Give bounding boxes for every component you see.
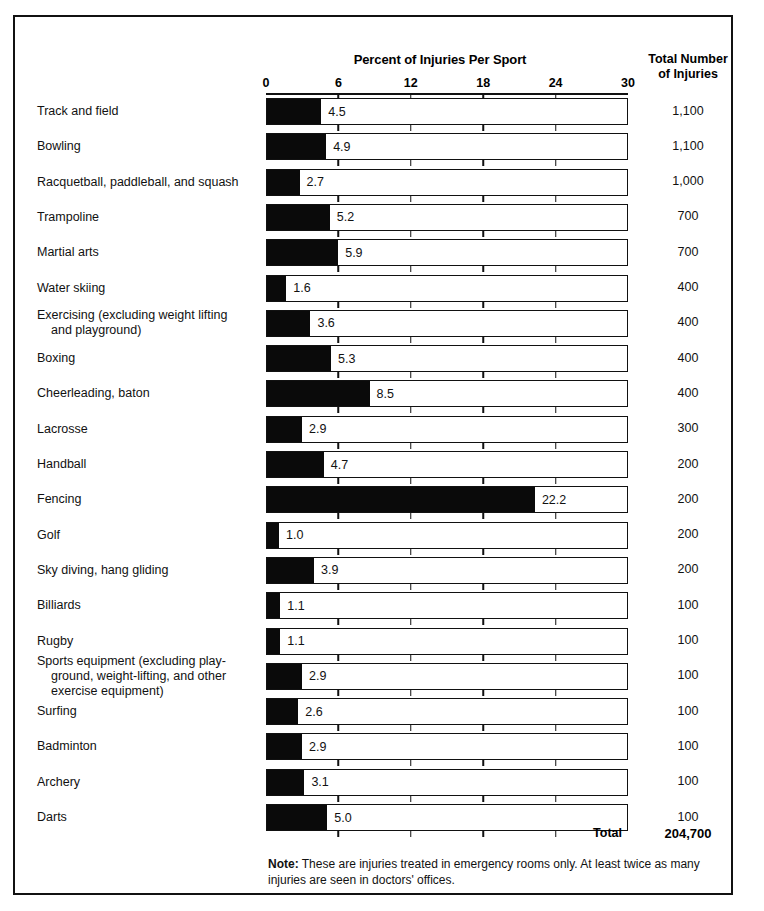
bar-value-label: 5.0 <box>334 811 351 825</box>
row-label: Sports equipment (excluding play-ground,… <box>37 654 259 699</box>
x-tick-mark-6 <box>338 93 340 99</box>
bar-track <box>266 486 628 513</box>
grid-tick <box>555 760 557 766</box>
grid-tick <box>410 478 412 484</box>
bar-fill <box>267 452 324 477</box>
bar-value-label: 1.0 <box>286 528 303 542</box>
grid-tick <box>482 407 484 413</box>
grid-tick <box>410 619 412 625</box>
row-total-value: 700 <box>628 245 748 259</box>
grid-tick <box>338 549 340 555</box>
row-label-line: ground, weight-lifting, and other <box>37 669 259 684</box>
grid-tick <box>410 196 412 202</box>
grid-tick <box>482 337 484 343</box>
grid-tick <box>410 760 412 766</box>
bar-value-label: 2.9 <box>309 740 326 754</box>
grid-tick <box>338 796 340 802</box>
grid-tick <box>338 584 340 590</box>
row-label-line: Racquetball, paddleball, and squash <box>37 175 259 190</box>
grid-tick <box>338 655 340 661</box>
note-lead: Note: <box>268 857 299 871</box>
grid-tick <box>555 196 557 202</box>
grid-tick <box>482 302 484 308</box>
row-label-line: Water skiing <box>37 281 259 296</box>
row-label: Bowling <box>37 139 259 154</box>
grid-tick <box>338 160 340 166</box>
grid-tick <box>482 725 484 731</box>
row-label-line: Sky diving, hang gliding <box>37 563 259 578</box>
row-label: Trampoline <box>37 210 259 225</box>
bar-value-label: 4.9 <box>333 140 350 154</box>
row-total-value: 400 <box>628 280 748 294</box>
row-total-value: 400 <box>628 315 748 329</box>
grid-tick <box>482 443 484 449</box>
row-total-value: 300 <box>628 421 748 435</box>
grid-tick <box>410 513 412 519</box>
bar-fill <box>267 523 279 548</box>
row-label: Lacrosse <box>37 422 259 437</box>
bar-value-label: 22.2 <box>542 493 566 507</box>
row-total-value: 100 <box>628 774 748 788</box>
bar-value-label: 5.2 <box>337 210 354 224</box>
grid-tick <box>482 655 484 661</box>
bar-fill <box>267 99 321 124</box>
grid-tick <box>338 690 340 696</box>
row-total-value: 200 <box>628 457 748 471</box>
grid-tick <box>338 478 340 484</box>
grid-tick <box>555 478 557 484</box>
row-label: Cheerleading, baton <box>37 386 259 401</box>
grid-tick <box>482 196 484 202</box>
bar-fill <box>267 487 535 512</box>
bar-fill <box>267 311 310 336</box>
grid-tick <box>410 372 412 378</box>
grid-tick <box>410 407 412 413</box>
row-total-value: 400 <box>628 386 748 400</box>
row-label: Surfing <box>37 704 259 719</box>
grid-tick <box>338 196 340 202</box>
x-tick-mark-18 <box>482 93 484 99</box>
bar-fill <box>267 134 326 159</box>
row-label-line: exercise equipment) <box>37 684 259 699</box>
row-label-line: Martial arts <box>37 245 259 260</box>
grid-tick <box>555 796 557 802</box>
row-label-line: Lacrosse <box>37 422 259 437</box>
bar-track <box>266 239 628 266</box>
bar-track <box>266 204 628 231</box>
bar-value-label: 2.7 <box>307 175 324 189</box>
bar-value-label: 2.6 <box>305 705 322 719</box>
grid-tick <box>555 231 557 237</box>
row-label: Rugby <box>37 634 259 649</box>
row-label: Racquetball, paddleball, and squash <box>37 175 259 190</box>
bar-value-label: 4.7 <box>331 458 348 472</box>
bar-value-label: 2.9 <box>309 422 326 436</box>
grid-tick <box>482 584 484 590</box>
figure-note: Note: These are injuries treated in emer… <box>268 856 700 888</box>
grid-tick <box>410 655 412 661</box>
row-total-value: 700 <box>628 209 748 223</box>
bar-fill <box>267 629 280 654</box>
row-label: Handball <box>37 457 259 472</box>
row-label-line: Archery <box>37 775 259 790</box>
grid-tick <box>338 302 340 308</box>
grid-tick <box>338 372 340 378</box>
row-label-line: Rugby <box>37 634 259 649</box>
bar-track <box>266 133 628 160</box>
bar-value-label: 1.1 <box>287 634 304 648</box>
bar-value-label: 3.6 <box>317 316 334 330</box>
bar-track <box>266 345 628 372</box>
grid-tick <box>482 372 484 378</box>
grid-tick <box>410 125 412 131</box>
row-total-value: 100 <box>628 668 748 682</box>
grid-tick <box>410 266 412 272</box>
grid-tick <box>338 619 340 625</box>
row-label-line: Track and field <box>37 104 259 119</box>
note-text: These are injuries treated in emergency … <box>268 857 700 887</box>
grid-tick <box>410 337 412 343</box>
grid-tick <box>410 549 412 555</box>
bar-value-label: 5.3 <box>338 352 355 366</box>
grid-tick <box>338 125 340 131</box>
grid-tick <box>410 160 412 166</box>
row-total-value: 200 <box>628 562 748 576</box>
row-label-line: Cheerleading, baton <box>37 386 259 401</box>
row-label: Martial arts <box>37 245 259 260</box>
